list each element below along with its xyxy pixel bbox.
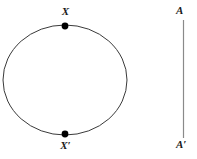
label-axis-top-a: A (155, 5, 197, 16)
label-axis-bottom-a-prime: A′ (155, 139, 197, 150)
figure-canvas: X X′ A A′ (0, 0, 197, 159)
circle-outline (3, 25, 127, 135)
label-point-x-prime: X′ (0, 140, 131, 151)
point-marker-x-prime (62, 131, 69, 138)
point-marker-x (62, 23, 69, 30)
geometry-diagram (0, 0, 197, 159)
label-point-x: X (0, 6, 131, 17)
